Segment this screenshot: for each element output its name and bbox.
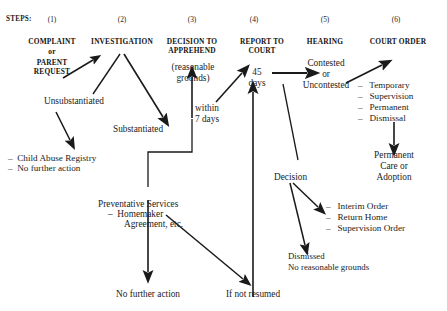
node-order-temporary: – Temporary — [358, 81, 410, 91]
node-within-7-days-line2: 7 days — [195, 114, 219, 124]
node-dismissed: Dismissed — [288, 252, 325, 262]
node-if-not-resumed: If not resumed — [226, 289, 280, 299]
node-dismissed-no-grounds: No reasonable grounds — [288, 263, 369, 273]
node-uncontested: Uncontested — [303, 80, 349, 90]
node-preventative-homemaker: – Homemaker — [108, 209, 163, 219]
node-return-home: – Return Home — [326, 213, 387, 223]
node-preventative-services: Preventative Services — [98, 199, 178, 209]
step-number-3: (3) — [188, 16, 197, 24]
node-no-further-action-bottom: No further action — [116, 289, 180, 299]
node-interim-order: – Interim Order — [326, 202, 388, 212]
node-no-further-action-registry: – No further action — [8, 164, 80, 174]
node-order-permanent: – Permanent — [358, 103, 409, 113]
node-within-7-days-line1: within — [195, 103, 219, 113]
node-permanent-care-line1: Permanent — [374, 150, 414, 160]
node-or: or — [322, 69, 330, 79]
header-complaint-or: or — [48, 48, 55, 56]
header-apprehend: APPREHEND — [168, 47, 215, 55]
header-parent-request: REQUEST — [34, 68, 70, 76]
node-contested: Contested — [307, 58, 344, 68]
node-permanent-care-line2: Care or — [380, 161, 408, 171]
step-number-5: (5) — [321, 16, 330, 24]
line-hearing-to-decision — [283, 84, 298, 160]
arrow-investigation-to-unsubstantiated — [93, 54, 120, 94]
node-45-days-line2: days — [248, 78, 265, 88]
node-order-supervision: – Supervision — [358, 92, 413, 102]
step-number-1: (1) — [48, 16, 57, 24]
header-court-order: COURT ORDER — [370, 38, 426, 46]
node-reasonable-grounds-line1: (reasonable — [172, 62, 215, 72]
step-number-2: (2) — [118, 16, 127, 24]
steps-label: STEPS: — [6, 16, 32, 24]
node-supervision-order: – Supervision Order — [326, 224, 405, 234]
node-order-dismissal: – Dismissal — [358, 114, 406, 124]
node-decision: Decision — [274, 172, 307, 182]
node-permanent-care-line3: Adoption — [376, 172, 411, 182]
node-substantiated: Substantiated — [113, 124, 163, 134]
header-hearing: HEARING — [307, 38, 343, 46]
header-court: COURT — [248, 47, 275, 55]
node-unsubstantiated: Unsubstantiated — [44, 96, 104, 106]
flowchart-diagram: STEPS: (1) (2) (3) (4) (5) (6) COMPLAINT… — [0, 0, 447, 311]
header-report-to: REPORT TO — [240, 38, 284, 46]
node-45-days-line1: 45 — [252, 67, 261, 77]
header-decision-to: DECISION TO — [167, 38, 217, 46]
arrow-unsubstantiated-to-registry — [56, 112, 70, 140]
node-preventative-agreement: Agreement, etc. — [124, 219, 183, 229]
arrow-investigation-to-substantiated — [124, 54, 163, 117]
step-number-6: (6) — [392, 16, 401, 24]
header-complaint: COMPLAINT — [28, 38, 75, 46]
step-number-4: (4) — [250, 16, 259, 24]
header-parent: PARENT — [37, 59, 68, 67]
header-investigation: INVESTIGATION — [91, 38, 153, 46]
node-reasonable-grounds-line2: grounds) — [176, 73, 209, 83]
arrow-decision-to-dismissed — [290, 183, 305, 245]
arrow-decision-to-orders — [293, 183, 318, 207]
arrow-within-7-days-to-report — [216, 73, 242, 102]
